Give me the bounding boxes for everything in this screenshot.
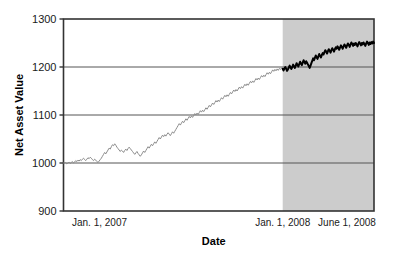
y-axis-title: Net Asset Value — [13, 74, 25, 156]
net-asset-value-chart: 9001000110012001300 Jan. 1, 2007Jan. 1, … — [0, 0, 413, 260]
y-tick-label-900: 900 — [38, 205, 56, 217]
x-tick-label-1: Jan. 1, 2008 — [255, 217, 310, 228]
y-tick-label-1300: 1300 — [32, 13, 56, 25]
x-axis-title: Date — [202, 235, 226, 247]
x-tick-label-2: June 1, 2008 — [318, 217, 376, 228]
chart-canvas: 9001000110012001300 Jan. 1, 2007Jan. 1, … — [0, 0, 413, 260]
y-tick-label-1100: 1100 — [33, 109, 57, 121]
y-tick-label-1000: 1000 — [32, 157, 56, 169]
x-tick-label-0: Jan. 1, 2007 — [72, 217, 127, 228]
y-tick-label-1200: 1200 — [32, 61, 56, 73]
